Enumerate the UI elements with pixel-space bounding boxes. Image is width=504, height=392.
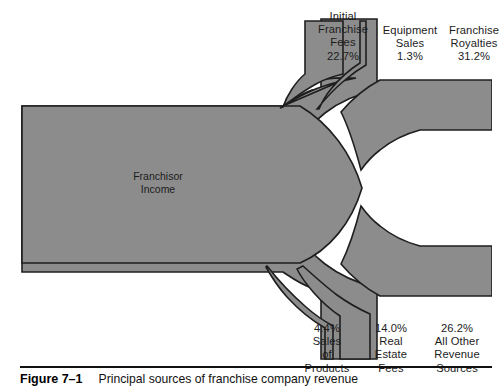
flow-ribbon-franchise-royalties: [341, 80, 492, 170]
caption-divider: [20, 366, 492, 368]
flow-ribbon-all-other-revenue-sources: [341, 206, 492, 296]
label-equipment-sales: Equipment Sales 1.3%: [374, 24, 446, 64]
label-initial-franchise-fees: Initial Franchise Fees 22.7%: [311, 10, 375, 63]
figure-caption-text: Principal sources of franchise company r…: [99, 372, 358, 386]
center-label-franchisor-income: Franchisor Income: [103, 170, 213, 196]
label-franchise-royalties: Franchise Royalties 31.2%: [441, 24, 504, 64]
figure-number: Figure 7–1: [20, 372, 83, 386]
figure-caption: Figure 7–1 Principal sources of franchis…: [20, 372, 492, 392]
